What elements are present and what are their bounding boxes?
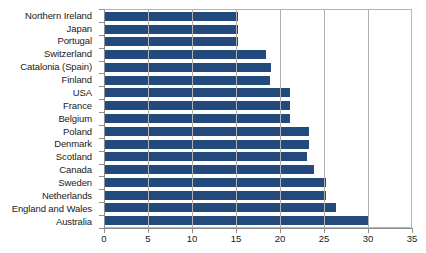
bar-row <box>105 125 411 138</box>
bar-row <box>105 74 411 87</box>
y-axis-label: Canada <box>0 164 98 177</box>
y-axis-label: France <box>0 99 98 112</box>
y-axis-category-labels: Northern IrelandJapanPortugalSwitzerland… <box>0 9 98 228</box>
bar-chart: Northern IrelandJapanPortugalSwitzerland… <box>0 0 426 253</box>
bar <box>105 12 238 21</box>
y-axis-label: Japan <box>0 22 98 35</box>
bar-row <box>105 99 411 112</box>
bar-row <box>105 201 411 214</box>
x-axis-tick-label: 25 <box>319 234 330 244</box>
bar-row <box>105 23 411 36</box>
y-axis-label: Finland <box>0 73 98 86</box>
bar <box>105 127 309 136</box>
plot-area <box>104 9 412 228</box>
x-axis-tick-label: 10 <box>187 234 198 244</box>
y-axis-label: Belgium <box>0 112 98 125</box>
y-axis-label: Portugal <box>0 35 98 48</box>
x-axis-tick-label: 0 <box>101 234 106 244</box>
bar <box>105 203 336 212</box>
y-axis-label: USA <box>0 86 98 99</box>
x-axis-tick-label: 20 <box>275 234 286 244</box>
bar <box>105 165 314 174</box>
bar <box>105 152 307 161</box>
bar-series <box>105 10 411 227</box>
bar <box>105 50 266 59</box>
bar <box>105 178 326 187</box>
bar-row <box>105 138 411 151</box>
bar <box>105 37 238 46</box>
bar <box>105 140 309 149</box>
bar <box>105 25 238 34</box>
bar <box>105 63 271 72</box>
y-axis-label: Scotland <box>0 151 98 164</box>
x-axis-tick-labels: 05101520253035 <box>104 234 413 248</box>
bar <box>105 114 290 123</box>
bar-row <box>105 112 411 125</box>
y-axis-label: Denmark <box>0 138 98 151</box>
y-axis-label: Netherlands <box>0 189 98 202</box>
x-axis-tick-label: 15 <box>231 234 242 244</box>
gridline <box>368 10 369 227</box>
bar <box>105 191 326 200</box>
bar-row <box>105 36 411 49</box>
bar <box>105 88 290 97</box>
gridline <box>192 10 193 227</box>
y-axis-label: Sweden <box>0 176 98 189</box>
bar <box>105 216 369 225</box>
bar-row <box>105 176 411 189</box>
bar-row <box>105 150 411 163</box>
bar-row <box>105 87 411 100</box>
y-axis-label: Poland <box>0 125 98 138</box>
bar-row <box>105 48 411 61</box>
bar-row <box>105 61 411 74</box>
gridline <box>324 10 325 227</box>
bar-row <box>105 189 411 202</box>
gridline <box>236 10 237 227</box>
x-axis-tick-label: 30 <box>363 234 374 244</box>
x-axis-tick-label: 5 <box>145 234 150 244</box>
chart-title <box>0 0 426 7</box>
gridline <box>148 10 149 227</box>
bar <box>105 76 270 85</box>
y-axis-label: England and Wales <box>0 202 98 215</box>
bar <box>105 101 290 110</box>
y-axis-label: Catalonia (Spain) <box>0 61 98 74</box>
bar-row <box>105 163 411 176</box>
bar-row <box>105 10 411 23</box>
x-axis-tick-label: 35 <box>407 234 418 244</box>
y-axis-label: Australia <box>0 215 98 228</box>
y-axis-label: Northern Ireland <box>0 9 98 22</box>
y-axis-label: Switzerland <box>0 48 98 61</box>
bar-row <box>105 214 411 227</box>
gridline <box>280 10 281 227</box>
